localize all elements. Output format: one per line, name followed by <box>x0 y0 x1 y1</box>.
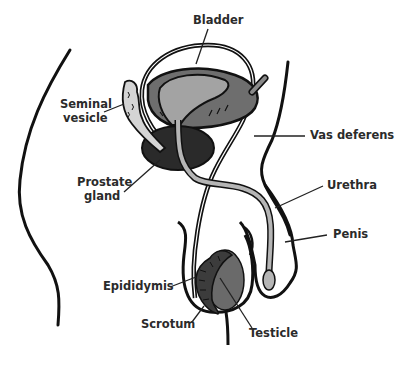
label-testicle: Testicle <box>249 327 298 340</box>
label-scrotum: Scrotum <box>141 318 195 331</box>
label-prostate-2: gland <box>84 190 120 203</box>
label-bladder: Bladder <box>193 14 243 27</box>
label-penis: Penis <box>333 228 368 241</box>
label-seminal-vesicle-1: Seminal <box>60 98 112 111</box>
urethra-bulb <box>263 270 275 290</box>
label-epididymis: Epididymis <box>103 280 174 293</box>
label-prostate-1: Prostate <box>77 176 132 189</box>
label-urethra: Urethra <box>327 179 377 192</box>
leg-line <box>226 312 228 345</box>
label-vas-deferens: Vas deferens <box>310 129 394 142</box>
body-outline-back <box>19 50 70 325</box>
leader-urethra <box>275 186 323 208</box>
label-seminal-vesicle-2: vesicle <box>63 112 108 125</box>
